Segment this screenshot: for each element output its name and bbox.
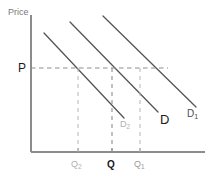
demand-shift-diagram: Price P D2 D D1 Q2 Q Q1 bbox=[0, 0, 219, 179]
x-tick-label-q1-text: Q bbox=[134, 159, 141, 169]
demand-curve-d2 bbox=[44, 33, 124, 118]
x-tick-label-q2: Q2 bbox=[71, 160, 82, 169]
x-tick-label-q1-sub: 1 bbox=[141, 163, 145, 170]
curve-label-d1: D1 bbox=[187, 109, 198, 119]
demand-curve-d bbox=[70, 22, 158, 112]
price-tick-label: P bbox=[18, 62, 26, 74]
curve-label-d-text: D bbox=[160, 112, 169, 127]
curve-label-d: D bbox=[160, 113, 169, 126]
curve-label-d2-sub: 2 bbox=[127, 123, 131, 130]
x-tick-label-q1: Q1 bbox=[134, 160, 145, 169]
x-tick-label-q-text: Q bbox=[107, 159, 115, 170]
demand-curve-d1 bbox=[103, 16, 196, 107]
x-tick-label-q: Q bbox=[107, 160, 115, 170]
x-tick-label-q2-sub: 2 bbox=[78, 163, 82, 170]
y-axis-label: Price bbox=[8, 8, 29, 17]
curve-label-d2: D2 bbox=[120, 120, 130, 129]
curve-label-d2-text: D bbox=[120, 119, 127, 129]
curve-label-d1-sub: 1 bbox=[194, 112, 198, 121]
diagram-canvas bbox=[0, 0, 219, 179]
x-tick-label-q2-text: Q bbox=[71, 159, 78, 169]
